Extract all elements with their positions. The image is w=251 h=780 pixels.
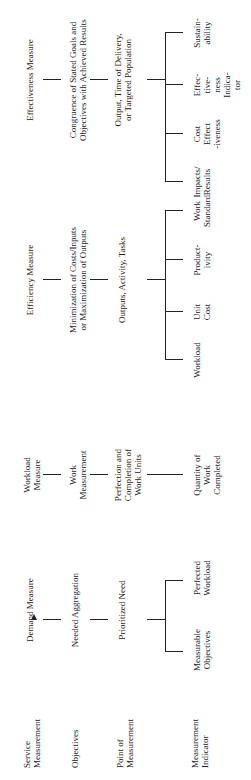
effectiveness-indicator-3: Effec- tive- ness Indica- tor (192, 60, 242, 110)
efficiency-indicator-3: Product- ivity (192, 235, 212, 285)
row-label-point: Point of Measurement (115, 719, 135, 768)
measurement-diagram: Service Measurement Objectives Point of … (0, 0, 251, 780)
workload-objective: Work Measurement (68, 435, 88, 515)
workload-title: Workload Measure (22, 445, 42, 505)
effectiveness-objective: Congruence of Stated Goals and Objective… (68, 0, 88, 160)
demand-indicator-2: Perfected Workload (192, 548, 212, 608)
workload-indicator: Quantity of Work Completed (192, 435, 222, 515)
row-label-objectives: Objectives (70, 730, 80, 769)
demand-indicator-1: Measurable Objectives (192, 620, 212, 680)
effectiveness-indicator-4: Sustain- ability (192, 8, 212, 58)
effectiveness-title: Effectiveness Measure (25, 10, 35, 150)
efficiency-title: Efficiency Measure (25, 220, 35, 340)
workload-point: Perfection and Completion of Work Units (113, 432, 143, 518)
demand-title: Demand Measure (25, 570, 35, 650)
effectiveness-indicator-1: Impacts/ Results (192, 157, 212, 207)
row-label-service: Service Measurement (22, 719, 42, 768)
demand-point: Prioritized Need (117, 570, 127, 650)
efficiency-objective: Minimization of Costs/Inputs or Maximiza… (68, 210, 88, 350)
row-label-indicator: Measurement Indicator (190, 719, 210, 768)
effectiveness-point: Output, Time of Delivery, or Targeted Po… (113, 10, 133, 150)
demand-objective: Needed Aggregation (70, 570, 80, 650)
efficiency-indicator-1: Workload (192, 335, 202, 385)
efficiency-point: Outputs, Activity, Tasks (117, 210, 127, 350)
efficiency-indicator-2: Unit Cost (192, 287, 212, 337)
effectiveness-indicator-2: Cost Effect -iveness (192, 109, 222, 159)
